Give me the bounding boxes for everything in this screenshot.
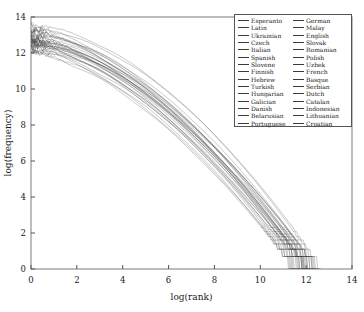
y-tick-label: 12 xyxy=(15,48,26,58)
legend-item-label: Serbian xyxy=(306,83,330,90)
y-tick-label: 8 xyxy=(21,120,26,130)
legend-line-swatch-icon xyxy=(293,20,304,21)
legend-item[interactable]: Finnish xyxy=(238,68,293,75)
legend-item-label: Turkish xyxy=(251,83,274,90)
y-tick-label: 6 xyxy=(21,156,26,166)
y-tick-label: 0 xyxy=(21,264,26,274)
legend-item-label: French xyxy=(306,68,328,75)
y-tick-label: 14 xyxy=(15,12,26,22)
legend-line-swatch-icon xyxy=(238,64,249,65)
legend-item[interactable]: Slovene xyxy=(238,61,293,68)
legend-item-label: Finnish xyxy=(251,68,274,75)
legend-item-label: Spanish xyxy=(251,54,275,61)
legend-item[interactable]: Basque xyxy=(293,76,348,83)
legend-item[interactable]: Belarusian xyxy=(238,112,293,119)
legend-item[interactable]: Catalan xyxy=(293,98,348,105)
legend-item-label: Latin xyxy=(251,24,267,31)
legend-item[interactable]: Lithuanian xyxy=(293,112,348,119)
legend-item[interactable]: Esperanto xyxy=(238,17,293,24)
y-tick-label: 4 xyxy=(21,192,26,202)
legend-item-label: Slovene xyxy=(251,61,275,68)
legend-item-label: Belarusian xyxy=(251,112,284,119)
legend-item[interactable]: Hungarian xyxy=(238,90,293,97)
legend-line-swatch-icon xyxy=(238,79,249,80)
x-tick-label: 10 xyxy=(255,275,266,285)
legend-item[interactable]: Indonesian xyxy=(293,105,348,112)
x-tick-label: 2 xyxy=(74,275,79,285)
legend-item-label: Malay xyxy=(306,24,325,31)
x-tick-label: 6 xyxy=(166,275,171,285)
legend-item-label: Polish xyxy=(306,54,324,61)
legend-item-label: Esperanto xyxy=(251,17,282,24)
legend-item[interactable]: German xyxy=(293,17,348,24)
legend-line-swatch-icon xyxy=(238,20,249,21)
legend-item[interactable]: Turkish xyxy=(238,83,293,90)
legend-item-label: Basque xyxy=(306,76,328,83)
legend-line-swatch-icon xyxy=(238,101,249,102)
legend-line-swatch-icon xyxy=(293,93,304,94)
legend-line-swatch-icon xyxy=(293,101,304,102)
legend-item[interactable]: Spanish xyxy=(238,54,293,61)
legend-item[interactable]: Czech xyxy=(238,39,293,46)
legend-line-swatch-icon xyxy=(238,115,249,116)
legend-line-swatch-icon xyxy=(293,86,304,87)
legend-item[interactable]: Ukrainian xyxy=(238,32,293,39)
legend-item-label: Portuguese xyxy=(251,120,285,127)
legend-line-swatch-icon xyxy=(293,71,304,72)
legend-columns: EsperantoLatinUkrainianCzechItalianSpani… xyxy=(238,17,348,124)
legend-item[interactable]: Danish xyxy=(238,105,293,112)
legend-item[interactable]: Malay xyxy=(293,24,348,31)
legend-column-2: GermanMalayEnglishSlovakRomanianPolishUz… xyxy=(293,17,348,124)
legend-item[interactable]: French xyxy=(293,68,348,75)
legend-line-swatch-icon xyxy=(238,42,249,43)
legend-line-swatch-icon xyxy=(238,35,249,36)
legend-line-swatch-icon xyxy=(238,108,249,109)
legend-line-swatch-icon xyxy=(238,123,249,124)
legend-item[interactable]: Portuguese xyxy=(238,120,293,127)
legend-item[interactable]: Serbian xyxy=(293,83,348,90)
legend-item[interactable]: Romanian xyxy=(293,46,348,53)
legend-item-label: Danish xyxy=(251,105,272,112)
legend-item[interactable]: Italian xyxy=(238,46,293,53)
legend-item[interactable]: Galician xyxy=(238,98,293,105)
legend-line-swatch-icon xyxy=(293,49,304,50)
x-tick-label: 12 xyxy=(301,275,312,285)
legend-line-swatch-icon xyxy=(293,108,304,109)
y-tick-label: 10 xyxy=(15,84,26,94)
legend-item[interactable]: Latin xyxy=(238,24,293,31)
legend-line-swatch-icon xyxy=(238,57,249,58)
legend-line-swatch-icon xyxy=(238,71,249,72)
legend-item[interactable]: Dutch xyxy=(293,90,348,97)
legend-line-swatch-icon xyxy=(293,27,304,28)
legend-column-1: EsperantoLatinUkrainianCzechItalianSpani… xyxy=(238,17,293,124)
legend-item-label: Catalan xyxy=(306,98,330,105)
legend-line-swatch-icon xyxy=(293,79,304,80)
legend-item-label: Ukrainian xyxy=(251,32,281,39)
x-tick-label: 4 xyxy=(120,275,125,285)
legend-item-label: Czech xyxy=(251,39,270,46)
y-axis-label: log(frequency) xyxy=(3,110,13,177)
legend-item[interactable]: Croatian xyxy=(293,120,348,127)
legend-item[interactable]: Hebrew xyxy=(238,76,293,83)
legend-item-label: Dutch xyxy=(306,90,324,97)
legend-item-label: Croatian xyxy=(306,120,332,127)
legend-line-swatch-icon xyxy=(238,49,249,50)
legend-item[interactable]: Polish xyxy=(293,54,348,61)
x-tick-label: 14 xyxy=(347,275,358,285)
y-tick-label: 2 xyxy=(21,228,26,238)
legend-line-swatch-icon xyxy=(293,123,304,124)
legend-line-swatch-icon xyxy=(293,64,304,65)
legend-line-swatch-icon xyxy=(238,27,249,28)
legend-item-label: German xyxy=(306,17,330,24)
legend-item-label: Romanian xyxy=(306,46,337,53)
legend-item[interactable]: English xyxy=(293,32,348,39)
legend-line-swatch-icon xyxy=(293,35,304,36)
chart-legend: EsperantoLatinUkrainianCzechItalianSpani… xyxy=(234,14,352,127)
legend-item-label: Hungarian xyxy=(251,90,284,97)
legend-item-label: English xyxy=(306,32,329,39)
legend-item[interactable]: Uzbek xyxy=(293,61,348,68)
legend-item-label: Slovak xyxy=(306,39,326,46)
legend-item[interactable]: Slovak xyxy=(293,39,348,46)
x-tick-label: 0 xyxy=(28,275,33,285)
legend-item-label: Lithuanian xyxy=(306,112,339,119)
